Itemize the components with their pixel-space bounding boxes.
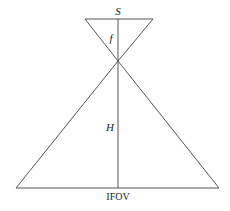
- focal-length-label: f: [109, 32, 114, 44]
- ifov-label: IFOV: [106, 191, 130, 202]
- height-label: H: [105, 121, 115, 133]
- upper-left-ray: [85, 19, 118, 61]
- lower-right-ray: [118, 61, 219, 188]
- ifov-diagram: S f H IFOV: [0, 0, 230, 211]
- upper-right-ray: [118, 19, 153, 61]
- sensor-label: S: [115, 5, 121, 17]
- lower-left-ray: [16, 61, 118, 188]
